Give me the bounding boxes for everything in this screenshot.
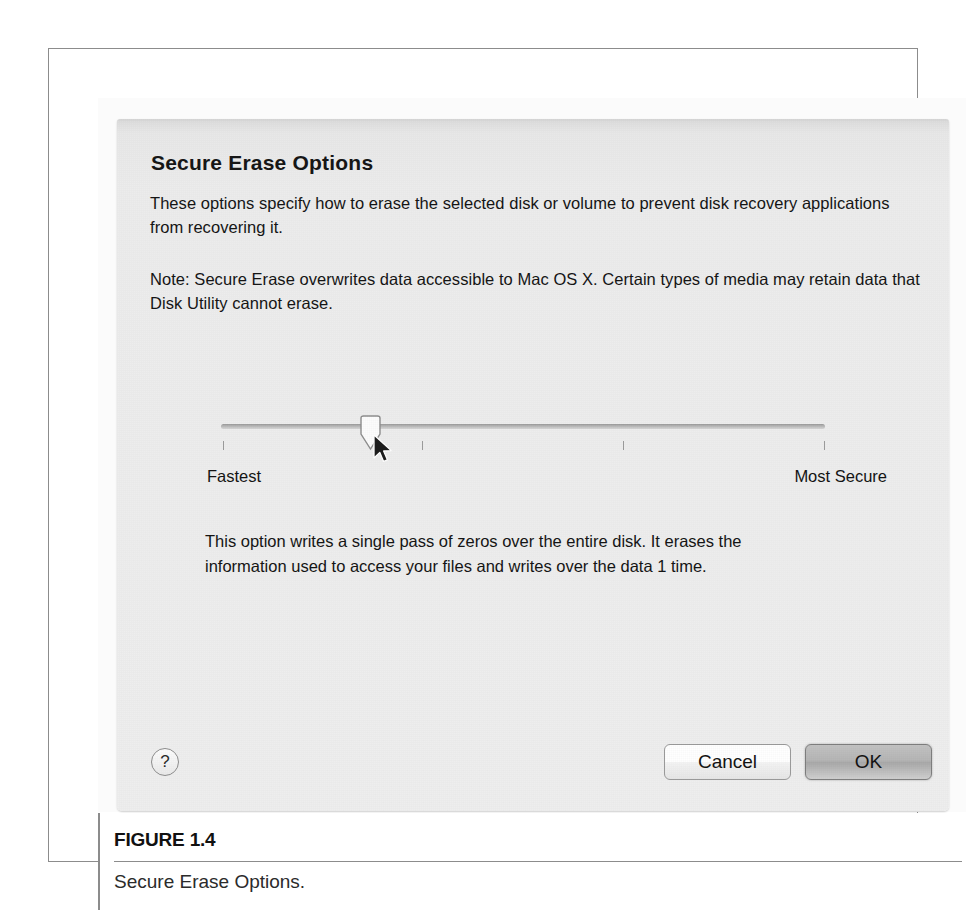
slider-tick-3 — [824, 441, 825, 450]
note-paragraph: Note: Secure Erase overwrites data acces… — [150, 267, 920, 315]
option-description-text: This option writes a single pass of zero… — [205, 529, 765, 579]
slider-tick-2 — [623, 441, 624, 450]
slider-knob-icon[interactable] — [358, 415, 383, 451]
slider-label-fastest: Fastest — [207, 467, 261, 486]
caption-divider — [114, 861, 962, 862]
slider-label-most-secure: Most Secure — [794, 467, 887, 486]
intro-paragraph: These options specify how to erase the s… — [150, 191, 920, 239]
dialog-title: Secure Erase Options — [151, 151, 373, 175]
slider-track[interactable] — [221, 424, 825, 429]
caption-left-rule — [98, 813, 100, 910]
help-button[interactable]: ? — [151, 748, 179, 776]
ok-button[interactable]: OK — [805, 744, 932, 780]
slider-tick-1 — [422, 441, 423, 450]
figure-caption-text: Secure Erase Options. — [114, 871, 305, 893]
figure-frame: Secure Erase Options These options speci… — [48, 48, 918, 862]
figure-number: FIGURE 1.4 — [114, 829, 215, 851]
slider-tick-0 — [223, 441, 224, 450]
secure-erase-options-dialog: Secure Erase Options These options speci… — [117, 119, 949, 811]
figure-caption-block: FIGURE 1.4 Secure Erase Options. — [98, 813, 966, 910]
cancel-button[interactable]: Cancel — [664, 744, 791, 780]
